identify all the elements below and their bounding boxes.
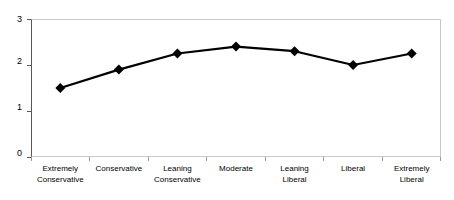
x-cat-label-0: Extremely Conservative bbox=[31, 163, 90, 185]
x-tick-mark-7 bbox=[440, 157, 441, 161]
x-axis: Extremely Conservative Conservative Lean… bbox=[31, 163, 441, 199]
x-cat-label-4-line-0: Leaning bbox=[265, 163, 324, 174]
x-cat-label-2-line-0: Leaning bbox=[148, 163, 207, 174]
x-cat-label-6: Extremely Liberal bbox=[382, 163, 441, 185]
x-tick-mark-4 bbox=[265, 157, 266, 161]
x-cat-label-4-line-1: Liberal bbox=[265, 174, 324, 185]
x-tick-mark-5 bbox=[323, 157, 324, 161]
x-tick-mark-2 bbox=[148, 157, 149, 161]
x-cat-label-5: Liberal bbox=[324, 163, 383, 174]
y-tick-label-0: 0 bbox=[17, 149, 22, 158]
x-tick-mark-0 bbox=[31, 157, 32, 161]
x-tick-mark-6 bbox=[382, 157, 383, 161]
x-cat-label-6-line-1: Liberal bbox=[382, 174, 441, 185]
y-tick-label-1: 1 bbox=[17, 103, 22, 112]
x-cat-label-3: Moderate bbox=[207, 163, 266, 174]
x-cat-label-6-line-0: Extremely bbox=[382, 163, 441, 174]
x-cat-label-1-line-0: Conservative bbox=[90, 163, 149, 174]
x-cat-label-2-line-1: Conservative bbox=[148, 174, 207, 185]
y-axis: 3 2 1 0 bbox=[0, 0, 31, 200]
y-tick-label-2: 2 bbox=[17, 57, 22, 66]
x-cat-label-5-line-0: Liberal bbox=[324, 163, 383, 174]
x-cat-label-3-line-0: Moderate bbox=[207, 163, 266, 174]
line-chart: 3 2 1 0 Extremely Conservative Conservat… bbox=[0, 0, 454, 200]
x-tick-mark-3 bbox=[206, 157, 207, 161]
x-tick-mark-1 bbox=[89, 157, 90, 161]
x-cat-label-4: Leaning Liberal bbox=[265, 163, 324, 185]
plot-area bbox=[31, 19, 441, 157]
x-cat-label-0-line-0: Extremely bbox=[31, 163, 90, 174]
x-cat-label-2: Leaning Conservative bbox=[148, 163, 207, 185]
y-tick-label-3: 3 bbox=[17, 15, 22, 24]
x-cat-label-1: Conservative bbox=[90, 163, 149, 174]
x-cat-label-0-line-1: Conservative bbox=[31, 174, 90, 185]
